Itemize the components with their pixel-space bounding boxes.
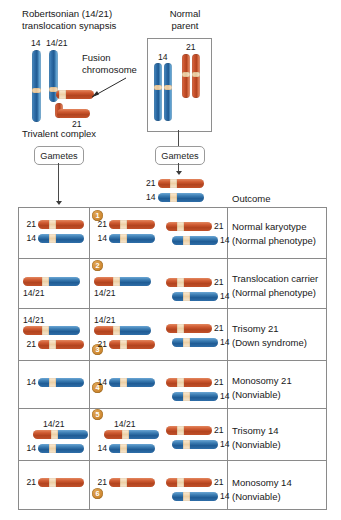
chromosome-label: 14/21 bbox=[114, 419, 159, 429]
centromere bbox=[49, 444, 56, 453]
gamete-cell: 2114 bbox=[23, 219, 84, 243]
chromosome-label: 14/21 bbox=[23, 315, 84, 325]
normal-gamete-14-label: 14 bbox=[146, 192, 156, 202]
normal-gamete-chromosome: 21 bbox=[166, 425, 230, 435]
centromere bbox=[59, 90, 66, 99]
chromosome-label: 14 bbox=[220, 439, 230, 449]
gamete-cell: 21 bbox=[23, 477, 84, 487]
phenotype-text: (Down syndrome) bbox=[232, 337, 326, 349]
chromosome-bar bbox=[38, 220, 84, 229]
normal-parent-chr21-b bbox=[192, 54, 200, 98]
chromosome-label: 14 bbox=[220, 491, 230, 501]
robertsonian-title: Robertsonian (14/21) translocation synap… bbox=[22, 8, 152, 31]
chromosome-label: 21 bbox=[23, 477, 36, 487]
chromosome-label: 14/21 bbox=[94, 288, 151, 298]
centromere bbox=[32, 88, 41, 93]
table-row: 621212114Monosomy 14(Nonviable) bbox=[18, 459, 327, 510]
chromosome-bar bbox=[109, 444, 155, 453]
chromosome-bar bbox=[166, 426, 212, 435]
phenotype-text: (Nonviable) bbox=[232, 389, 326, 401]
figure-canvas: Robertsonian (14/21) translocation synap… bbox=[0, 0, 341, 520]
gamete-chromosome: 14 bbox=[23, 443, 88, 453]
chromosome-label: 21 bbox=[94, 219, 107, 229]
chromosome-label: 21 bbox=[94, 477, 107, 487]
centromere bbox=[49, 340, 56, 349]
centromere bbox=[120, 220, 127, 229]
centromere bbox=[42, 326, 49, 335]
zygote-gamete-cell: 2114 bbox=[94, 219, 155, 243]
chromosome-label: 14 bbox=[23, 377, 36, 387]
normal-parent-chr14-label: 14 bbox=[158, 52, 168, 62]
chromosome-bar bbox=[166, 324, 212, 333]
outcome-text: Monosomy 21 bbox=[232, 375, 326, 387]
chromosome-label: 14 bbox=[23, 233, 36, 243]
chromosome-bar bbox=[166, 378, 212, 387]
trivalent-complex-label: Trivalent complex bbox=[22, 128, 96, 140]
centromere bbox=[120, 478, 127, 487]
chromosome-bar bbox=[172, 338, 218, 347]
table-row: 214/2114/212114Translocation carrier(Nor… bbox=[18, 257, 327, 307]
zygote-chromosome: 14/21 bbox=[94, 277, 151, 298]
chromosome-label: 14 bbox=[23, 443, 36, 453]
centromere bbox=[120, 234, 127, 243]
centromere bbox=[49, 478, 56, 487]
centromere bbox=[177, 378, 184, 387]
zygote-chromosome: 14/21 bbox=[94, 315, 155, 335]
chromosome-bar bbox=[166, 278, 212, 287]
gametes-left-line bbox=[58, 163, 59, 203]
normal-gamete-chromosome: 14 bbox=[172, 391, 230, 401]
chromosome-bar bbox=[33, 430, 88, 439]
centromere bbox=[51, 430, 58, 439]
centromere bbox=[177, 278, 184, 287]
normal-parent-chr14-a bbox=[154, 63, 162, 121]
centromere bbox=[183, 440, 190, 449]
centromere bbox=[120, 378, 127, 387]
chromosome-label: 21 bbox=[94, 339, 107, 349]
normal-gamete-chromosome: 21 bbox=[166, 277, 230, 287]
chromosome-bar bbox=[109, 234, 155, 243]
gamete-cell: 14/2114 bbox=[33, 419, 88, 453]
chromosome-bar bbox=[172, 236, 218, 245]
phenotype-text: (Normal phenotype) bbox=[232, 287, 326, 299]
normal-gamete-chromosome: 14 bbox=[172, 439, 230, 449]
gamete-chromosome: 21 bbox=[23, 477, 84, 487]
chromosome-label: 14 bbox=[94, 233, 107, 243]
trivalent-chr21-arm bbox=[57, 109, 90, 118]
chromosome-label: 14/21 bbox=[23, 288, 80, 298]
outcome-cell: Normal karyotype(Normal phenotype) bbox=[232, 221, 326, 246]
outcome-text: Normal karyotype bbox=[232, 221, 326, 233]
phenotype-text: (Nonviable) bbox=[232, 439, 326, 451]
normal-gamete-chromosome: 14 bbox=[172, 491, 230, 501]
chromosome-bar bbox=[94, 326, 151, 335]
chromosome-bar bbox=[172, 492, 218, 501]
gamete-chromosome: 14 bbox=[23, 377, 84, 387]
chromosome-label: 21 bbox=[214, 425, 224, 435]
zygote-chromosome: 14/21 bbox=[104, 419, 159, 439]
normal-gamete-cell: 2114 bbox=[166, 477, 230, 501]
zygote-chromosome: 21 bbox=[94, 477, 155, 487]
chromosome-bar bbox=[172, 292, 218, 301]
chromosome-bar bbox=[172, 392, 218, 401]
centromere bbox=[183, 292, 190, 301]
centromere bbox=[183, 236, 190, 245]
outcome-cell: Trisomy 21(Down syndrome) bbox=[232, 323, 326, 348]
chromosome-bar bbox=[23, 326, 80, 335]
table-row: 514/211414/21142114Trisomy 14(Nonviable) bbox=[18, 407, 327, 459]
step-badge: 6 bbox=[92, 488, 103, 499]
fusion-callout-arrow bbox=[82, 75, 128, 101]
gamete-chromosome: 14/21 bbox=[33, 419, 88, 439]
chromosome-label: 21 bbox=[23, 339, 36, 349]
normal-parent-chr21-a bbox=[182, 54, 190, 98]
centromere bbox=[177, 222, 184, 231]
zygote-gamete-cell: 14/2121 bbox=[94, 315, 155, 349]
normal-gamete-chromosome: 21 bbox=[166, 323, 230, 333]
outcome-cell: Monosomy 21(Nonviable) bbox=[232, 375, 326, 400]
chromosome-bar bbox=[38, 478, 84, 487]
gamete-cell: 14/21 bbox=[23, 277, 80, 298]
zygote-gamete-cell: 14 bbox=[94, 377, 155, 387]
centromere bbox=[183, 392, 190, 401]
fusion-chromosome-label: Fusion chromosome bbox=[82, 52, 148, 75]
chromosome-bar bbox=[38, 340, 84, 349]
outcome-cell: Translocation carrier(Normal phenotype) bbox=[232, 273, 326, 298]
normal-gamete-chromosome: 14 bbox=[172, 291, 230, 301]
